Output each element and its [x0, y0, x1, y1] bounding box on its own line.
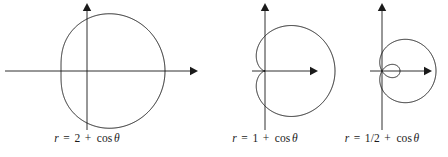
eq-theta-3: θ — [412, 132, 419, 144]
eq-lhs-3: r — [345, 132, 350, 144]
eq-cos-3: cos — [395, 132, 412, 144]
y-axis-arrow-3 — [378, 3, 386, 11]
eq-constant-3: 1/2 — [365, 132, 380, 144]
polar-plot-3: r = 1/2 + cosθ — [0, 0, 448, 157]
x-axis-arrow-3 — [424, 67, 432, 75]
eq-equals-3: = — [349, 132, 365, 144]
equation-text-3: r = 1/2 + cosθ — [345, 132, 420, 144]
eq-plus-3: + — [380, 132, 396, 144]
polar-curves-figure: r = 2 + cosθr = 1 + cosθr = 1/2 + cosθ — [0, 0, 448, 157]
